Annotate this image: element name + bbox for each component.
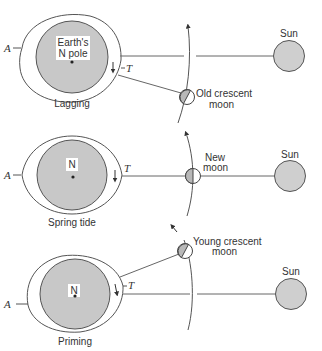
sun: [276, 279, 307, 310]
sun: [274, 41, 305, 72]
caption: Lagging: [54, 98, 90, 109]
moon-label: moon: [209, 99, 234, 110]
moon-label: moon: [212, 246, 237, 257]
moon-old-crescent: [180, 90, 195, 105]
sun-label: Sun: [281, 149, 299, 160]
north-pole-dot: [71, 175, 74, 178]
caption: Spring tide: [48, 217, 96, 228]
moon-orbit-arc: [178, 26, 190, 123]
sun-label: Sun: [282, 266, 300, 277]
earth-label: N: [68, 159, 75, 170]
moon-new: [186, 169, 201, 184]
earth: [37, 140, 107, 210]
label-t: T: [126, 62, 133, 74]
earth-label: Earth's: [58, 37, 89, 48]
north-pole-dot: [70, 60, 73, 63]
tidal-diagram: Earth's N pole A T Old crescent moon Sun…: [0, 0, 322, 351]
label-a: A: [3, 169, 11, 181]
label-t: T: [124, 162, 131, 174]
label-a: A: [3, 42, 11, 54]
label-a: A: [3, 298, 11, 310]
earth-label: N pole: [59, 48, 88, 59]
caption: Priming: [58, 336, 92, 347]
panel-priming: N A T Young crescent moon Sun Priming: [3, 236, 307, 347]
earth-label: N: [70, 285, 77, 296]
sun-label: Sun: [280, 28, 298, 39]
label-t: T: [128, 279, 135, 291]
panel-lagging: Earth's N pole A T Old crescent moon Sun…: [3, 14, 305, 123]
north-pole-dot: [73, 294, 76, 297]
moon-young-crescent: [178, 244, 193, 259]
moon-label: moon: [203, 162, 228, 173]
moon-label: Old crescent: [196, 88, 252, 99]
panel-spring-tide: N A T New moon Sun Spring tide: [3, 133, 306, 232]
sun: [275, 161, 306, 192]
